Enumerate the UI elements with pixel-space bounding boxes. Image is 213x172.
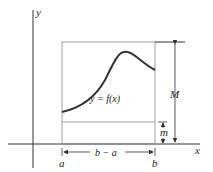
m-label: m [160, 126, 168, 138]
width-label: b − a [95, 147, 117, 158]
a-label: a [59, 157, 65, 169]
y-axis-label: y [35, 6, 41, 18]
curve-label: y = f(x) [89, 93, 121, 105]
b-label: b [152, 157, 158, 169]
diagram-canvas: y x y = f(x) M m b − a a b [0, 0, 213, 172]
M-label: M [169, 88, 180, 100]
x-axis-label: x [194, 144, 200, 156]
